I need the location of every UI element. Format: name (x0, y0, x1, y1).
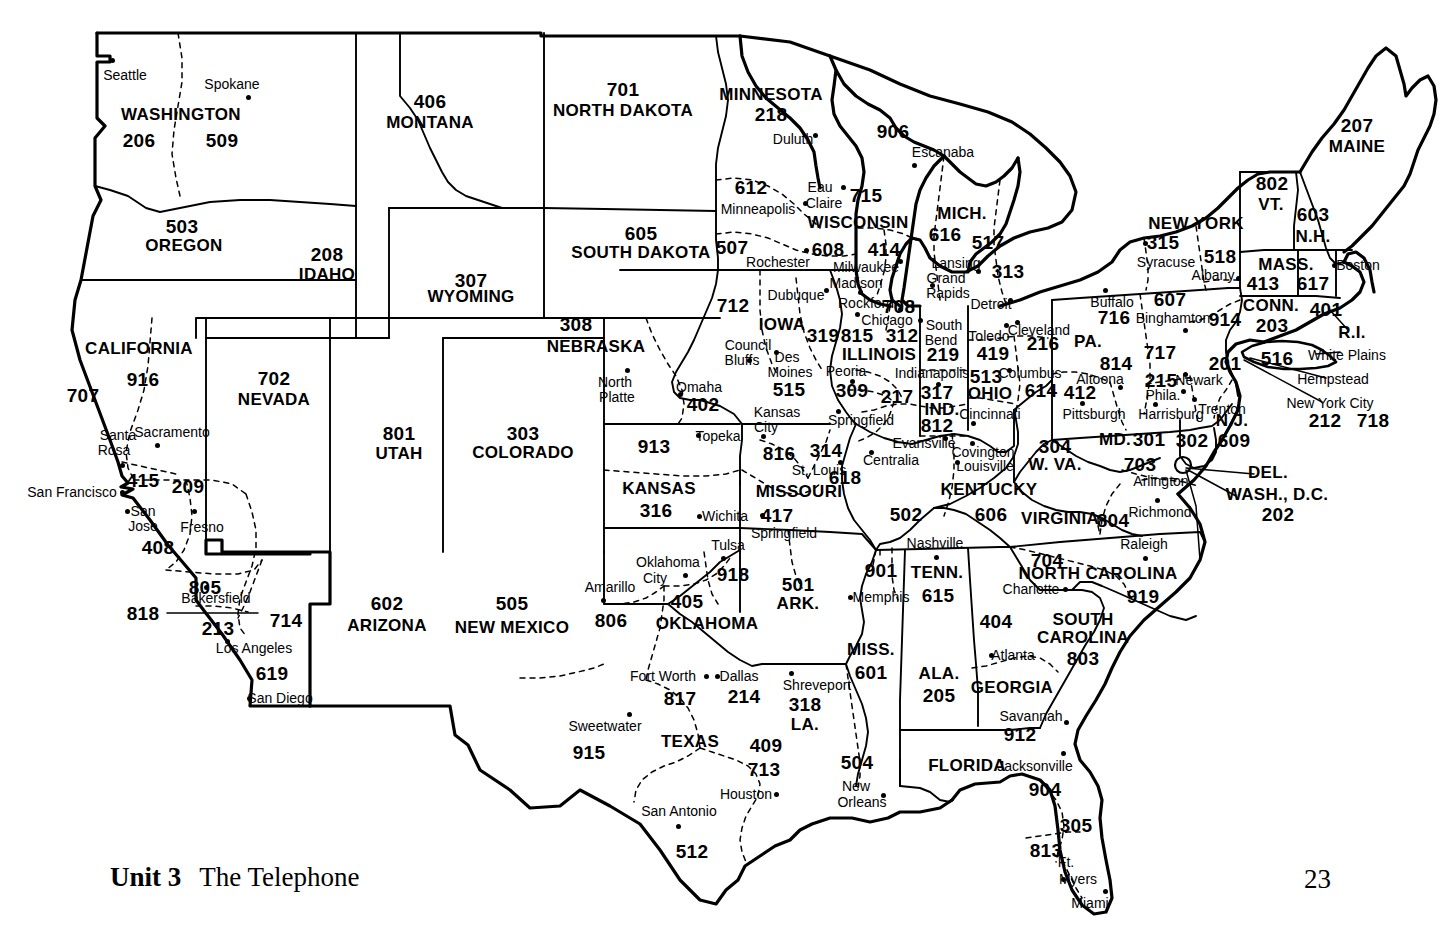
city-kansas: Kansas (754, 405, 801, 419)
code-815: 815 (841, 326, 874, 345)
code-714: 714 (270, 611, 303, 630)
city-arlington: Arlington (1133, 474, 1188, 488)
code-304: 304 (1039, 437, 1072, 456)
city-bluffs: Bluffs (725, 353, 760, 367)
city-wichita: Wichita (702, 509, 748, 523)
city-covington-dot (970, 441, 975, 446)
city-cincinnati: Cincinnati (959, 407, 1020, 421)
state-maryland: MD. (1099, 431, 1131, 448)
code-701: 701 (607, 80, 640, 99)
state-iowa: IOWA (759, 316, 806, 333)
code-702: 702 (258, 369, 291, 388)
city-springfield-il-dot (836, 409, 841, 414)
code-505: 505 (496, 594, 529, 613)
state-tennessee: TENN. (911, 564, 964, 581)
city-lansing-dot (976, 269, 981, 274)
city-seattle-dot (110, 58, 115, 63)
city-fort-worth-dot (704, 674, 709, 679)
state-california: CALIFORNIA (85, 340, 193, 357)
code-916: 916 (127, 370, 160, 389)
code-308: 308 (560, 315, 593, 334)
code-517: 517 (972, 233, 1005, 252)
city-jose: Jose (128, 519, 158, 533)
city-jacksonville: Jacksonville (997, 759, 1072, 773)
city-eau: Eau (808, 180, 833, 194)
city-shreveport-dot (789, 671, 794, 676)
code-309: 309 (836, 381, 869, 400)
city-eau-dot (841, 185, 846, 190)
unit-title: The Telephone (199, 862, 359, 892)
city-fresno-dot (192, 509, 197, 514)
unit-label: Unit 3 (110, 862, 181, 892)
city-sweetwater-dot (627, 712, 632, 717)
code-603: 603 (1297, 205, 1330, 224)
code-904: 904 (1029, 780, 1062, 799)
state-utah: UTAH (375, 445, 422, 462)
city-lansing: Lansing (931, 256, 980, 270)
code-919: 919 (1127, 587, 1160, 606)
code-212: 212 (1309, 411, 1342, 430)
state-georgia: GEORGIA (971, 679, 1053, 696)
state-kansas: KANSAS (622, 480, 696, 497)
code-606: 606 (975, 505, 1008, 524)
city-santa: Santa (100, 428, 137, 442)
city-harrisburg: Harrisburg (1138, 407, 1203, 421)
city-louisville: Louisville (956, 459, 1014, 473)
code-501: 501 (782, 575, 815, 594)
city-memphis-dot (848, 595, 853, 600)
state-michigan: MICH. (937, 205, 987, 222)
code-612: 612 (735, 178, 768, 197)
code-414: 414 (868, 240, 901, 259)
code-408: 408 (142, 538, 175, 557)
city-st-louis: St. Louis (792, 463, 846, 477)
city-sacramento: Sacramento (134, 425, 209, 439)
code-409: 409 (750, 736, 783, 755)
code-615: 615 (922, 586, 955, 605)
state-west-virginia: W. VA. (1028, 456, 1081, 473)
city-buffalo: Buffalo (1090, 295, 1133, 309)
state-washington-dc: WASH., D.C. (1226, 486, 1328, 503)
city-minneapolis: Minneapolis (721, 202, 796, 216)
city-charlotte: Charlotte (1003, 582, 1060, 596)
city-topeka: Topeka (695, 429, 740, 443)
city-chicago-dot (898, 307, 903, 312)
state-louisiana: LA. (791, 716, 819, 733)
code-206: 206 (123, 131, 156, 150)
state-maine: MAINE (1329, 138, 1385, 155)
city-bend: Bend (925, 333, 958, 347)
city-fort-worth: Fort Worth (630, 669, 696, 683)
city-fresno: Fresno (180, 520, 224, 534)
city-buffalo-dot (1103, 288, 1108, 293)
city-milwaukee: Milwaukee (833, 260, 899, 274)
city-milwaukee-dot (898, 259, 903, 264)
state-wisconsin: WISCONSIN (808, 214, 909, 231)
code-609: 609 (1218, 431, 1251, 450)
city-rockford-dot (855, 312, 860, 317)
city-claire: Claire (806, 196, 843, 210)
code-717: 717 (1144, 343, 1177, 362)
code-913: 913 (638, 437, 671, 456)
city-bluffs-dot (747, 358, 752, 363)
city-binghamton: Binghamton (1136, 311, 1211, 325)
city-duluth-dot (813, 133, 818, 138)
city-boston: Boston (1336, 258, 1380, 272)
city-atlanta: Atlanta (991, 648, 1035, 662)
city-oklahoma-dot (683, 573, 688, 578)
city-seattle: Seattle (103, 68, 147, 82)
code-806: 806 (595, 611, 628, 630)
city-phila: Phila. (1145, 388, 1180, 402)
code-509: 509 (206, 131, 239, 150)
city-syracuse-dot (1143, 241, 1148, 246)
code-515: 515 (773, 380, 806, 399)
city-springfield-mo-dot (760, 513, 765, 518)
state-arizona: ARIZONA (347, 617, 427, 634)
city-richmond-dot (1155, 498, 1160, 503)
city-moines: Moines (767, 365, 812, 379)
state-delaware: DEL. (1248, 464, 1288, 481)
code-703: 703 (1124, 455, 1157, 474)
city-santa-dot (120, 463, 125, 468)
code-716: 716 (1098, 308, 1131, 327)
city-dallas: Dallas (720, 669, 759, 683)
city-sacramento-dot (155, 443, 160, 448)
state-colorado: COLORADO (472, 444, 574, 461)
